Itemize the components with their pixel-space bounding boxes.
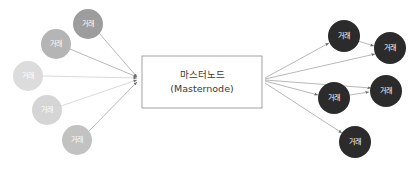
right-transaction-node-2[interactable]: 거래 xyxy=(374,32,406,64)
inbound-edge-3 xyxy=(43,76,137,78)
node-circle[interactable] xyxy=(13,61,43,91)
node-circle[interactable] xyxy=(339,126,371,158)
masternode-box[interactable]: 마스터노드 (Masternode) xyxy=(142,56,262,108)
left-node-group: 거래 거래 거래 거래 거래 xyxy=(13,9,103,155)
chained-edge-2 xyxy=(350,92,369,95)
masternode-label-english: (Masternode) xyxy=(170,83,233,94)
network-diagram: 마스터노드 (Masternode) 거래 거래 거래 거래 xyxy=(0,0,419,172)
left-transaction-node-4[interactable]: 거래 xyxy=(32,95,62,125)
diagram-canvas: 마스터노드 (Masternode) 거래 거래 거래 거래 xyxy=(0,0,419,172)
node-circle[interactable] xyxy=(318,82,350,114)
node-circle[interactable] xyxy=(328,20,360,52)
chained-edge-1 xyxy=(358,41,374,46)
masternode-rect[interactable] xyxy=(142,56,262,108)
inbound-edge-5 xyxy=(89,82,137,131)
inbound-edge-1 xyxy=(99,33,137,77)
outbound-edge-1 xyxy=(265,43,329,78)
inbound-edge-2 xyxy=(70,49,137,77)
masternode-label-korean: 마스터노드 xyxy=(180,69,225,80)
right-node-group: 거래 거래 거래 거래 거래 xyxy=(318,20,406,158)
left-transaction-node-5[interactable]: 거래 xyxy=(62,125,92,155)
right-transaction-node-4[interactable]: 거래 xyxy=(370,75,402,107)
node-circle[interactable] xyxy=(41,29,71,59)
inbound-edge-4 xyxy=(61,80,137,106)
node-circle[interactable] xyxy=(73,9,103,39)
outbound-edge-group xyxy=(265,43,375,133)
node-circle[interactable] xyxy=(62,125,92,155)
outbound-edge-2 xyxy=(265,54,375,79)
outbound-edge-4 xyxy=(265,80,371,88)
node-circle[interactable] xyxy=(374,32,406,64)
left-transaction-node-1[interactable]: 거래 xyxy=(73,9,103,39)
node-circle[interactable] xyxy=(370,75,402,107)
left-transaction-node-3[interactable]: 거래 xyxy=(13,61,43,91)
right-transaction-node-1[interactable]: 거래 xyxy=(328,20,360,52)
node-circle[interactable] xyxy=(32,95,62,125)
left-transaction-node-2[interactable]: 거래 xyxy=(41,29,71,59)
right-transaction-node-3[interactable]: 거래 xyxy=(318,82,350,114)
right-transaction-node-5[interactable]: 거래 xyxy=(339,126,371,158)
